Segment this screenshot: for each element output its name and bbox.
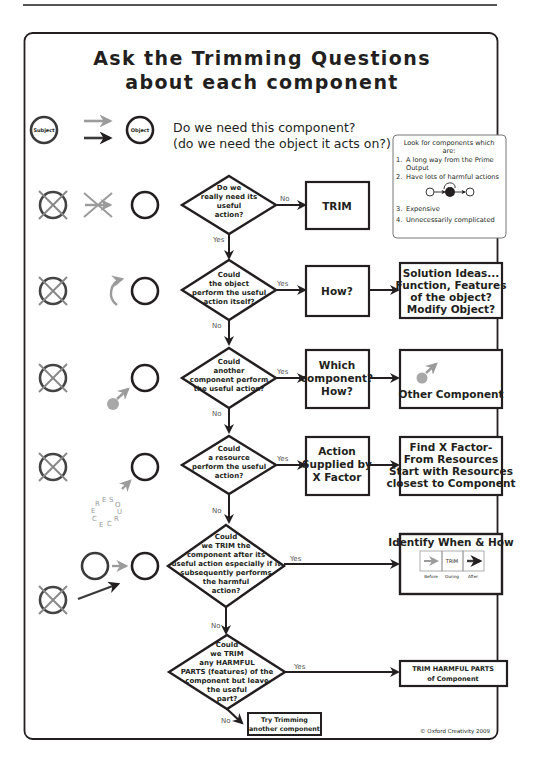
svg-text:perform the useful: perform the useful (192, 463, 266, 471)
crossed-subject-icon (39, 364, 67, 392)
look-for-num-4: 4. (396, 216, 402, 224)
subject-label: Subject (33, 127, 55, 134)
branch-yes-label: Yes (276, 280, 289, 288)
row-4-icons: CERESOURCE (39, 453, 158, 529)
other-component-dot-icon (107, 389, 128, 410)
crossed-subject-icon (39, 191, 67, 219)
svg-text:perform the useful: perform the useful (192, 289, 266, 297)
row-1-icons (39, 191, 158, 219)
svg-text:Find X Factor-: Find X Factor- (410, 441, 493, 453)
look-for-item-2: Have lots of harmful actions (406, 173, 499, 181)
svg-text:Could: Could (218, 445, 240, 453)
look-for-num-2: 2. (396, 173, 402, 181)
decision-4: Could a resource perform the useful acti… (182, 436, 276, 494)
self-action-arrow-icon (111, 279, 122, 305)
svg-text:useful: useful (217, 202, 241, 210)
object-circle-icon (132, 553, 158, 579)
svg-text:component after its: component after its (187, 551, 265, 559)
row-5-icons (39, 553, 158, 614)
subject-object-legend: Subject Object (31, 117, 153, 143)
look-for-num-1: 1. (396, 156, 402, 164)
decision-3: Could another component perform the usef… (182, 348, 276, 408)
look-for-header-2: are: (443, 147, 456, 155)
component-circle-icon (82, 553, 108, 579)
svg-text:No: No (212, 507, 222, 515)
svg-text:component perform: component perform (190, 376, 268, 384)
svg-text:How?: How? (321, 385, 353, 397)
object-circle-icon (132, 454, 158, 480)
svg-text:Yes: Yes (276, 455, 289, 463)
svg-text:X Factor: X Factor (312, 471, 362, 483)
look-for-header-1: Look for components which (404, 139, 495, 147)
svg-text:action?: action? (215, 472, 243, 480)
svg-text:useful action especially if it: useful action especially if it (172, 560, 282, 568)
svg-text:Yes: Yes (293, 663, 306, 671)
how-label: How? (321, 285, 353, 297)
svg-text:Do we: Do we (217, 184, 242, 192)
svg-text:No: No (212, 410, 222, 418)
row-3-icons (39, 364, 158, 410)
svg-text:of Component: of Component (427, 675, 478, 683)
svg-text:we TRIM the: we TRIM the (202, 542, 251, 550)
svg-text:Could: Could (218, 271, 240, 279)
svg-text:Identify When & How: Identify When & How (388, 536, 514, 548)
title-line-2: about each component (125, 71, 399, 93)
svg-text:another: another (213, 367, 245, 375)
svg-text:another component: another component (249, 725, 320, 733)
look-for-item-1b: Output (406, 164, 429, 172)
look-for-item-4: Unnecessarily complicated (406, 216, 495, 224)
object-circle-icon (132, 365, 158, 391)
svg-text:of the object?: of the object? (410, 291, 492, 303)
svg-text:action?: action? (215, 211, 243, 219)
svg-text:really need its: really need its (201, 193, 258, 201)
svg-text:Other Component: Other Component (398, 388, 503, 400)
svg-text:Start with Resources: Start with Resources (389, 465, 513, 477)
svg-text:the useful action?: the useful action? (194, 385, 265, 393)
title-line-1: Ask the Trimming Questions (93, 47, 431, 69)
row-2-icons (39, 277, 158, 305)
svg-text:a resource: a resource (208, 454, 250, 462)
svg-text:the harmful: the harmful (203, 578, 249, 586)
svg-text:component but leave: component but leave (185, 677, 269, 685)
intro-question-line-1: Do we need this component? (173, 120, 355, 135)
svg-text:part?: part? (217, 695, 238, 703)
svg-text:No: No (211, 622, 221, 630)
svg-text:Yes: Yes (289, 555, 302, 563)
svg-text:Function, Features: Function, Features (396, 279, 507, 291)
svg-text:Could: Could (216, 641, 238, 649)
crossed-subject-icon (39, 586, 67, 614)
svg-text:component?: component? (301, 372, 373, 384)
svg-text:Try Trimming: Try Trimming (261, 716, 308, 724)
harmful-action-arrow-icon (78, 584, 118, 599)
svg-text:the object: the object (209, 280, 250, 288)
svg-text:closest to Component: closest to Component (387, 477, 516, 489)
resource-arrow-icon (122, 481, 130, 489)
svg-text:Supplied by: Supplied by (302, 458, 372, 470)
object-label: Object (131, 127, 150, 134)
svg-text:any HARMFUL: any HARMFUL (199, 659, 255, 667)
resource-curved-text: CERESOURCE (91, 496, 122, 529)
crossed-subject-icon (39, 277, 67, 305)
branch-no-label: No (280, 195, 290, 203)
decision-1: Do we really need its useful action? (182, 176, 276, 234)
svg-text:the useful: the useful (207, 686, 247, 694)
crossed-action-icon (84, 193, 112, 217)
look-for-item-1: A long way from the Prime (406, 156, 494, 164)
decision-6: Could we TRIM any HARMFUL PARTS (feature… (169, 635, 285, 709)
svg-text:Could: Could (218, 358, 240, 366)
copyright: © Oxford Creativity 2009 (420, 728, 490, 735)
down-yes-label: Yes (212, 236, 225, 244)
svg-text:subsequently performs: subsequently performs (180, 569, 272, 577)
svg-text:During: During (445, 574, 459, 579)
svg-text:Could: Could (215, 533, 237, 541)
svg-text:Yes: Yes (276, 368, 289, 376)
svg-text:PARTS (features) of the: PARTS (features) of the (181, 668, 274, 676)
svg-text:No: No (221, 717, 231, 725)
svg-text:action?: action? (212, 587, 240, 595)
trimming-diagram: Ask the Trimming Questions about each co… (0, 0, 545, 777)
look-for-item-3: Expensive (406, 205, 440, 213)
intro-question-line-2: (do we need the object it acts on?) (173, 136, 391, 151)
decision-2: Could the object perform the useful acti… (182, 260, 276, 320)
decision-5: Could we TRIM the component after its us… (168, 525, 284, 607)
svg-text:TRIM: TRIM (445, 558, 458, 564)
